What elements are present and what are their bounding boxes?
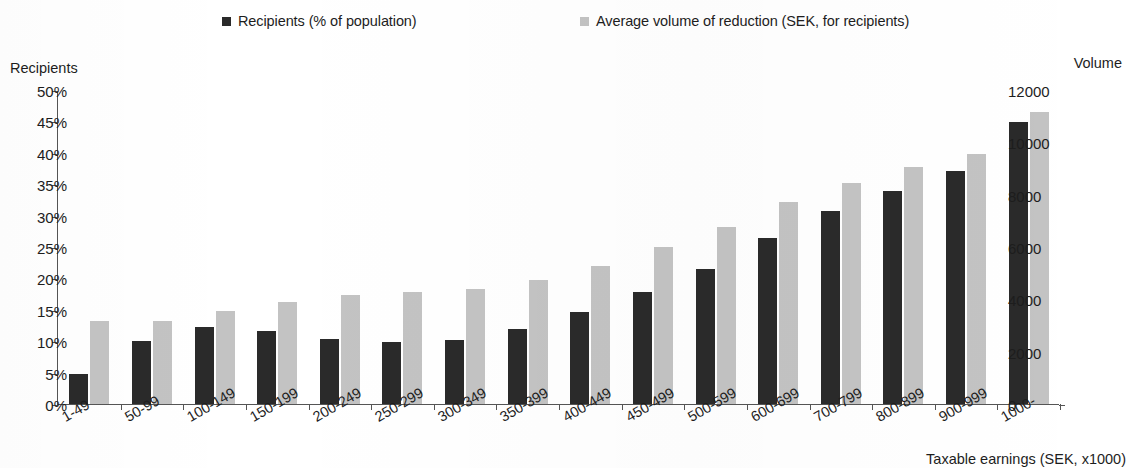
bar-group: [684, 91, 747, 404]
x-axis-tick: [1060, 404, 1061, 410]
y-axis-right-tick-label: 6000: [1008, 240, 1041, 257]
bar-average-volume[interactable]: [529, 280, 548, 404]
bar-group: [747, 91, 810, 404]
y-axis-right-title: Volume: [1074, 55, 1122, 71]
y-axis-left-tick-label: 50%: [37, 83, 67, 100]
bar-recipients[interactable]: [821, 211, 840, 404]
y-axis-left-tick-label: 30%: [37, 208, 67, 225]
y-axis-right-tick-label: 10000: [1008, 135, 1050, 152]
y-axis-left-title: Recipients: [10, 60, 78, 76]
y-axis-left-tick-label: 5%: [45, 365, 67, 382]
square-marker-icon: [222, 17, 231, 26]
bar-group: [872, 91, 935, 404]
y-axis-right-tick-label: 2000: [1008, 344, 1041, 361]
y-axis-right-tick-label: 8000: [1008, 187, 1041, 204]
bar-group: [622, 91, 685, 404]
legend-item-recipients: Recipients (% of population): [222, 13, 417, 29]
bar-recipients[interactable]: [570, 312, 589, 404]
legend-item-average-volume: Average volume of reduction (SEK, for re…: [580, 13, 909, 29]
bar-average-volume[interactable]: [153, 321, 172, 404]
y-axis-left-tick-label: 45%: [37, 114, 67, 131]
bar-average-volume[interactable]: [654, 247, 673, 404]
x-axis-category-labels: 1-4950-99100-149150-199200-249250-299300…: [57, 405, 1059, 468]
bar-recipients[interactable]: [195, 327, 214, 404]
plot-area: [57, 91, 1059, 405]
bar-group: [434, 91, 497, 404]
y-axis-left-tick-label: 10%: [37, 334, 67, 351]
y-axis-left-tick-label: 25%: [37, 240, 67, 257]
bar-average-volume[interactable]: [717, 227, 736, 404]
bar-group: [246, 91, 309, 404]
bar-average-volume[interactable]: [90, 321, 109, 404]
bar-recipients[interactable]: [257, 331, 276, 404]
bar-group: [371, 91, 434, 404]
y-axis-right-tick-label: 12000: [1008, 83, 1050, 100]
legend-item-label: Recipients (% of population): [238, 13, 417, 29]
bar-average-volume[interactable]: [842, 183, 861, 404]
bar-group: [496, 91, 559, 404]
bar-group: [58, 91, 121, 404]
bar-recipients[interactable]: [696, 269, 715, 404]
bar-average-volume[interactable]: [967, 154, 986, 404]
y-axis-left-tick-label: 20%: [37, 271, 67, 288]
bar-group: [183, 91, 246, 404]
bar-average-volume[interactable]: [779, 202, 798, 404]
bar-group: [121, 91, 184, 404]
bar-recipients[interactable]: [946, 171, 965, 404]
bar-series-container: [58, 91, 1059, 404]
legend-item-label: Average volume of reduction (SEK, for re…: [596, 13, 909, 29]
bar-group: [309, 91, 372, 404]
square-marker-icon: [580, 17, 589, 26]
bar-recipients[interactable]: [508, 329, 527, 404]
y-axis-right-tick-label: 4000: [1008, 292, 1041, 309]
bar-recipients[interactable]: [633, 292, 652, 404]
bar-group: [810, 91, 873, 404]
bar-recipients[interactable]: [320, 339, 339, 404]
bar-recipients[interactable]: [883, 191, 902, 404]
bar-group: [935, 91, 998, 404]
bar-group: [559, 91, 622, 404]
y-axis-left-tick-label: 15%: [37, 302, 67, 319]
y-axis-left-tick-label: 40%: [37, 145, 67, 162]
bar-average-volume[interactable]: [904, 167, 923, 404]
y-axis-left-tick-label: 35%: [37, 177, 67, 194]
chart-legend: Recipients (% of population) Average vol…: [0, 10, 1130, 40]
bar-recipients[interactable]: [758, 238, 777, 404]
bar-average-volume[interactable]: [591, 266, 610, 404]
bar-recipients[interactable]: [1009, 122, 1028, 404]
